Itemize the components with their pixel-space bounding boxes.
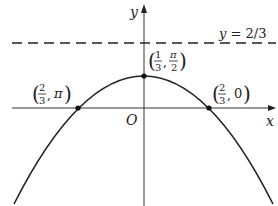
svg-text:2: 2: [39, 82, 45, 93]
svg-text:): ): [179, 49, 187, 73]
vertex-point: [141, 73, 146, 78]
svg-text:2: 2: [219, 82, 225, 93]
y-axis-label: y: [129, 4, 139, 20]
y-axis-arrow-icon: [141, 4, 147, 13]
svg-text:3: 3: [219, 95, 225, 106]
svg-text:): ): [64, 82, 72, 106]
left-intercept-point: [75, 105, 80, 110]
svg-text:1: 1: [155, 49, 161, 60]
right-intercept-label: ( 2 3 , 0 ): [212, 82, 251, 106]
svg-text:3: 3: [39, 95, 45, 106]
x-axis-label: x: [266, 113, 274, 129]
svg-text:,: ,: [163, 55, 167, 69]
svg-text:): ): [243, 82, 251, 106]
svg-text:,: ,: [227, 88, 231, 102]
svg-text:3: 3: [155, 62, 161, 73]
svg-text:π: π: [53, 86, 63, 101]
asymptote-label: y = 2/3: [218, 26, 266, 41]
vertex-label: ( 1 3 , π 2 ): [148, 49, 187, 73]
svg-text:π: π: [169, 49, 177, 60]
graph-diagram: y x O y = 2/3 ( 1 3 , π 2 ) ( 2 3 , π ) …: [0, 0, 278, 206]
svg-text:,: ,: [47, 88, 51, 102]
x-axis-arrow-icon: [268, 105, 276, 111]
left-intercept-label: ( 2 3 , π ): [32, 82, 72, 106]
right-intercept-point: [206, 105, 211, 110]
origin-label: O: [126, 112, 138, 128]
svg-text:0: 0: [234, 86, 242, 101]
svg-text:2: 2: [171, 62, 177, 73]
